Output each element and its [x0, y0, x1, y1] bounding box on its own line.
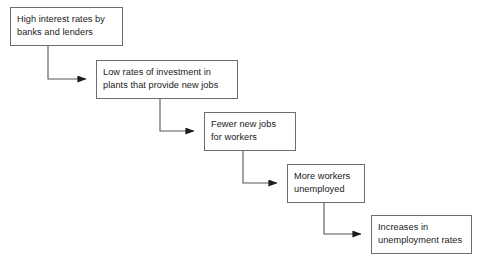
flow-node-increases-in-unemployment-rates: Increases in unemployment rates [371, 215, 472, 254]
connector-node4-to-node5 [324, 203, 361, 234]
flow-node-low-rates-of-investment: Low rates of investment in plants that p… [96, 60, 238, 99]
flowchart-diagram: High interest rates by banks and lenders… [0, 0, 481, 265]
flow-node-more-workers-unemployed: More workers unemployed [287, 164, 365, 203]
flow-node-fewer-new-jobs: Fewer new jobs for workers [204, 112, 296, 151]
connector-node3-to-node4 [243, 151, 277, 183]
flow-node-high-interest-rates: High interest rates by banks and lenders [10, 7, 123, 46]
connector-node1-to-node2 [48, 46, 86, 79]
connector-node2-to-node3 [160, 99, 194, 131]
